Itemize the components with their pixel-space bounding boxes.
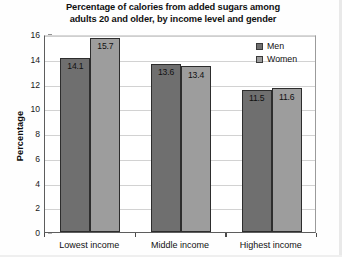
legend-item-women: Women [256, 53, 314, 65]
gridline [45, 36, 315, 37]
x-tick-mark [316, 233, 317, 237]
bar-men-2: 11.5 [242, 90, 272, 232]
bar-women-2: 11.6 [272, 88, 302, 232]
x-tick-label: Highest income [240, 240, 302, 250]
y-tick-label: 4 [10, 179, 40, 189]
x-tick-mark [44, 233, 45, 237]
x-tick-mark [135, 233, 136, 237]
y-tick-label: 0 [10, 228, 40, 238]
y-tick-label: 2 [10, 203, 40, 213]
y-tick-label: 14 [10, 55, 40, 65]
chart-title: Percentage of calories from added sugars… [28, 2, 318, 25]
chart-title-line-1: Percentage of calories from added sugars… [66, 2, 280, 12]
x-tick-label: Middle income [151, 240, 209, 250]
bar-value-label: 15.7 [91, 41, 119, 51]
chart-container: Percentage of calories from added sugars… [0, 0, 342, 257]
bar-women-1: 13.4 [181, 66, 211, 232]
y-tick-label: 16 [10, 30, 40, 40]
bar-value-label: 14.1 [61, 61, 89, 71]
bar-women-0: 15.7 [90, 38, 120, 232]
bar-men-0: 14.1 [60, 58, 90, 232]
bar-value-label: 11.5 [243, 93, 271, 103]
y-axis: Percentage 0246810121416 [4, 35, 40, 233]
bar-value-label: 13.6 [152, 67, 180, 77]
legend-swatch-icon-women [256, 56, 263, 63]
chart-title-line-2: adults 20 and older, by income level and… [28, 14, 318, 26]
bar-men-1: 13.6 [151, 64, 181, 232]
x-axis: Lowest incomeMiddle incomeHighest income [44, 233, 316, 257]
bar-value-label: 13.4 [182, 70, 210, 80]
legend-item-men: Men [256, 40, 314, 52]
y-tick-label: 10 [10, 104, 40, 114]
y-tick-label: 12 [10, 80, 40, 90]
x-tick-label: Lowest income [59, 240, 119, 250]
legend-label-men: Men [267, 41, 284, 51]
legend: Men Women [256, 40, 314, 66]
y-tick-label: 6 [10, 154, 40, 164]
legend-swatch-icon-men [256, 43, 263, 50]
x-tick-mark [225, 233, 226, 237]
legend-label-women: Women [267, 54, 297, 64]
bar-value-label: 11.6 [273, 92, 301, 102]
y-tick-label: 8 [10, 129, 40, 139]
